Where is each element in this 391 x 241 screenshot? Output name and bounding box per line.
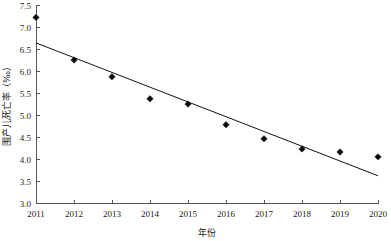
- axis-spines: [36, 5, 378, 204]
- y-tick-label: 3.0: [20, 199, 32, 209]
- x-tick-label: 2015: [179, 209, 198, 219]
- x-tick-label: 2012: [65, 209, 83, 219]
- x-tick-label: 2011: [27, 209, 45, 219]
- x-axis-ticks: [36, 200, 378, 204]
- y-tick-label: 4.0: [20, 155, 32, 165]
- y-tick-label: 7.5: [20, 1, 32, 11]
- x-tick-label: 2014: [141, 209, 160, 219]
- data-point: [109, 74, 115, 80]
- data-point: [147, 96, 153, 102]
- y-tick-label: 6.5: [20, 45, 32, 55]
- data-point: [71, 57, 77, 63]
- data-point: [337, 149, 343, 155]
- trend-line-series: [36, 43, 378, 176]
- data-point-series: [33, 14, 381, 160]
- chart-container: 3.03.54.04.55.05.56.06.57.07.5 201120122…: [0, 0, 391, 241]
- scatter-chart: 3.03.54.04.55.05.56.06.57.07.5 201120122…: [0, 0, 391, 241]
- y-axis-title: 围产儿死亡率（‰）: [1, 62, 12, 146]
- y-tick-label: 5.5: [20, 89, 32, 99]
- data-point: [223, 122, 229, 128]
- trend-line: [36, 43, 378, 176]
- data-point: [261, 136, 267, 142]
- x-tick-label: 2018: [293, 209, 312, 219]
- x-axis-title: 年份: [198, 227, 216, 238]
- data-point: [185, 101, 191, 107]
- y-tick-label: 4.5: [20, 133, 32, 143]
- y-tick-label: 7.0: [20, 23, 32, 33]
- x-axis-tick-labels: 2011201220132014201520162017201820192020: [27, 209, 387, 219]
- y-tick-label: 5.0: [20, 111, 32, 121]
- x-tick-label: 2017: [255, 209, 274, 219]
- data-point: [375, 154, 381, 160]
- y-tick-label: 3.5: [20, 177, 32, 187]
- x-tick-label: 2019: [331, 209, 350, 219]
- data-point: [33, 14, 39, 20]
- y-axis-tick-labels: 3.03.54.04.55.05.56.06.57.07.5: [20, 1, 32, 209]
- x-tick-label: 2020: [369, 209, 388, 219]
- y-axis-ticks: [36, 6, 40, 204]
- x-tick-label: 2016: [217, 209, 236, 219]
- x-tick-label: 2013: [103, 209, 122, 219]
- y-tick-label: 6.0: [20, 67, 32, 77]
